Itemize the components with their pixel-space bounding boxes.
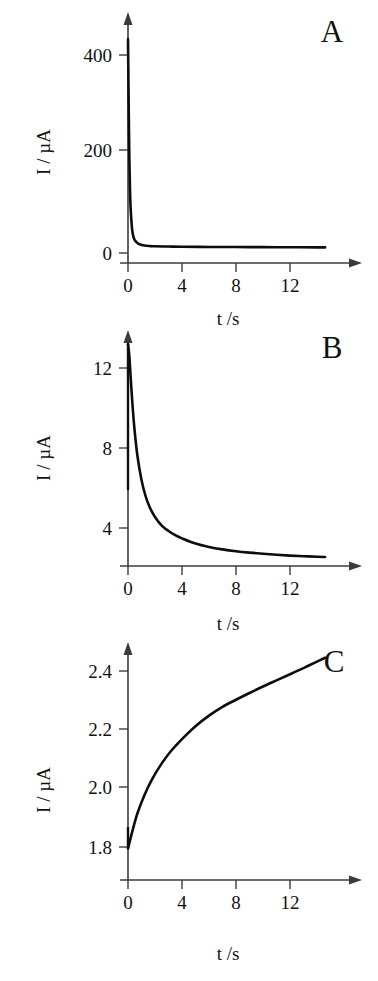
panel-c-plot: 1.8 2.0 2.2 2.4 0 4 8 12 I / µA t /s C — [0, 630, 378, 981]
panel-letter-c: C — [324, 644, 345, 679]
x-tick-label-0: 0 — [123, 892, 133, 913]
x-tick-label-4: 4 — [177, 578, 187, 599]
figure-container: 0 200 400 0 4 8 12 I / µA t /s A — [0, 0, 378, 981]
panel-c: 1.8 2.0 2.2 2.4 0 4 8 12 I / µA t /s C — [0, 630, 378, 981]
data-curve-b — [128, 344, 325, 557]
y-tick-label-2p0: 2.0 — [88, 777, 112, 798]
y-axis-arrowhead — [124, 642, 133, 655]
panel-b: 4 8 12 0 4 8 12 I / µA t /s B — [0, 318, 378, 648]
data-curve-a — [128, 39, 325, 247]
panel-b-plot: 4 8 12 0 4 8 12 I / µA t /s B — [0, 318, 378, 648]
panel-letter-a: A — [321, 14, 344, 49]
y-tick-label-1p8: 1.8 — [88, 837, 112, 858]
y-tick-label-4: 4 — [103, 518, 113, 539]
y-axis-title: I / µA — [33, 435, 54, 481]
y-axis-title: I / µA — [33, 129, 54, 175]
x-tick-label-8: 8 — [231, 578, 241, 599]
x-tick-label-8: 8 — [231, 892, 241, 913]
y-tick-label-8: 8 — [103, 438, 113, 459]
x-tick-label-4: 4 — [177, 892, 187, 913]
panel-a: 0 200 400 0 4 8 12 I / µA t /s A — [0, 0, 378, 335]
y-axis-arrowhead — [124, 12, 133, 25]
x-tick-label-12: 12 — [281, 578, 300, 599]
x-tick-label-0: 0 — [123, 578, 133, 599]
y-tick-label-200: 200 — [84, 140, 113, 161]
x-tick-label-12: 12 — [281, 892, 300, 913]
y-tick-label-2p2: 2.2 — [88, 719, 112, 740]
y-tick-label-0: 0 — [103, 243, 113, 264]
x-axis-title: t /s — [217, 943, 240, 964]
y-axis-arrowhead — [124, 330, 133, 343]
y-tick-label-12: 12 — [93, 358, 112, 379]
y-tick-label-2p4: 2.4 — [88, 661, 112, 682]
x-axis-arrowhead — [349, 259, 362, 268]
y-tick-label-400: 400 — [84, 45, 113, 66]
x-tick-label-0: 0 — [123, 275, 133, 296]
x-tick-label-4: 4 — [177, 275, 187, 296]
data-curve-c — [128, 658, 325, 849]
panel-a-plot: 0 200 400 0 4 8 12 I / µA t /s A — [0, 0, 378, 335]
y-axis-title: I / µA — [33, 767, 54, 813]
x-tick-label-12: 12 — [281, 275, 300, 296]
x-axis-arrowhead — [349, 876, 362, 885]
x-tick-label-8: 8 — [231, 275, 241, 296]
x-axis-arrowhead — [349, 562, 362, 571]
panel-letter-b: B — [322, 330, 343, 365]
